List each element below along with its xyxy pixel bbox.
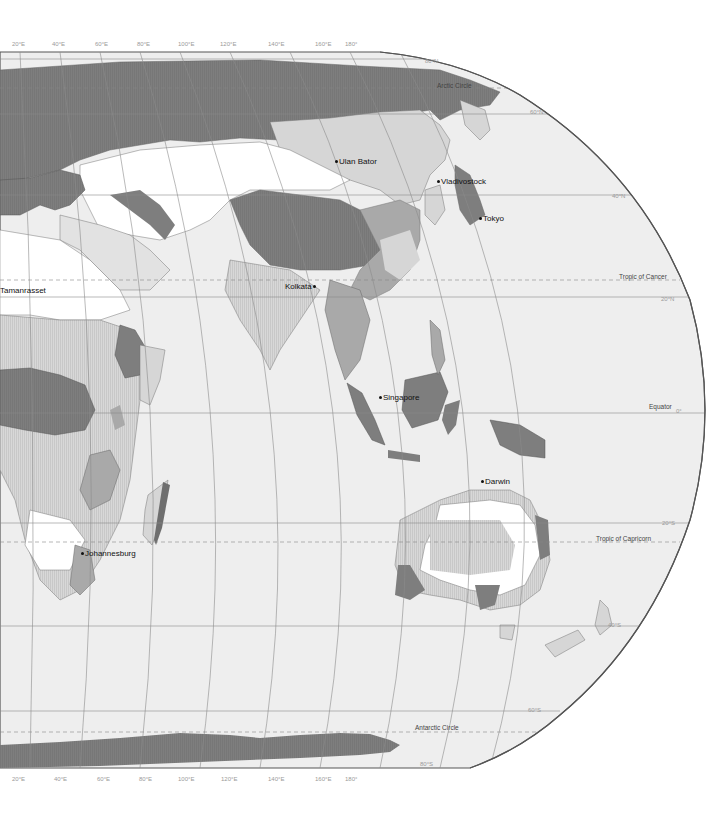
map-canvas xyxy=(0,0,718,817)
lon-label: 60°E xyxy=(97,776,110,782)
lon-label: 60°E xyxy=(95,41,108,47)
arctic-circle-label: Arctic Circle xyxy=(437,82,472,89)
lon-label: 120°E xyxy=(221,776,237,782)
antarctic-circle-label: Antarctic Circle xyxy=(415,724,459,731)
city-label: Darwin xyxy=(485,477,510,486)
lon-label: 80°E xyxy=(139,776,152,782)
city-tamanrasset[interactable]: Tamanrasset xyxy=(0,286,46,295)
city-label: Ulan Bator xyxy=(339,157,377,166)
tropic-of-cancer-label: Tropic of Cancer xyxy=(619,273,667,280)
city-label: Kolkata xyxy=(285,282,312,291)
city-label: Vladivostock xyxy=(441,177,486,186)
city-label: Tokyo xyxy=(483,214,504,223)
city-label: Johannesburg xyxy=(85,549,136,558)
city-kolkata[interactable]: Kolkata xyxy=(285,282,317,291)
city-darwin[interactable]: Darwin xyxy=(480,477,510,486)
lon-label: 40°E xyxy=(54,776,67,782)
lat-label: 60°S xyxy=(528,707,541,713)
lon-label: 180° xyxy=(345,41,357,47)
lon-label: 20°E xyxy=(12,41,25,47)
lon-label: 20°E xyxy=(12,776,25,782)
city-dot-icon xyxy=(313,285,316,288)
lat-label: 0° xyxy=(676,408,682,414)
lon-label: 140°E xyxy=(268,41,284,47)
city-johannesburg[interactable]: Johannesburg xyxy=(80,549,136,558)
lon-label: 100°E xyxy=(178,776,194,782)
tropic-of-capricorn-label: Tropic of Capricorn xyxy=(596,535,651,542)
lon-label: 100°E xyxy=(178,41,194,47)
lat-label: 20°N xyxy=(661,296,674,302)
city-dot-icon xyxy=(481,480,484,483)
lat-label: 80°N xyxy=(425,58,438,64)
lat-label: 20°S xyxy=(662,520,675,526)
city-dot-icon xyxy=(437,180,440,183)
lat-label: 80°S xyxy=(420,761,433,767)
city-label: Tamanrasset xyxy=(0,286,46,295)
lon-label: 140°E xyxy=(268,776,284,782)
city-label: Singapore xyxy=(383,393,419,402)
lon-label: 160°E xyxy=(315,41,331,47)
lat-label: 40°N xyxy=(612,193,625,199)
lon-label: 80°E xyxy=(137,41,150,47)
lon-label: 180° xyxy=(345,776,357,782)
land-australia-interior xyxy=(430,520,515,575)
city-dot-icon xyxy=(335,160,338,163)
city-dot-icon xyxy=(479,217,482,220)
city-tokyo[interactable]: Tokyo xyxy=(478,214,504,223)
city-dot-icon xyxy=(379,396,382,399)
city-vladivostock[interactable]: Vladivostock xyxy=(436,177,486,186)
lon-label: 40°E xyxy=(52,41,65,47)
lat-label: 40°S xyxy=(608,622,621,628)
city-ulan-bator[interactable]: Ulan Bator xyxy=(334,157,377,166)
lon-label: 120°E xyxy=(220,41,236,47)
lon-label: 160°E xyxy=(315,776,331,782)
equator-label: Equator xyxy=(649,403,672,410)
city-dot-icon xyxy=(81,552,84,555)
lat-label: 60°N xyxy=(530,109,543,115)
city-singapore[interactable]: Singapore xyxy=(378,393,419,402)
